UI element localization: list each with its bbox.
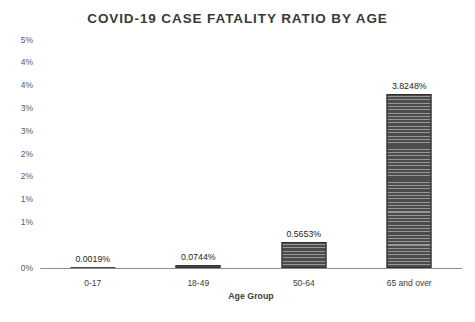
bar-slot: 0.0019% [40, 40, 146, 268]
bar-slot: 0.5653% [251, 40, 357, 268]
y-axis-tick-label: 4% [0, 81, 33, 90]
bar-slot: 0.0744% [146, 40, 252, 268]
y-axis-tick-label: 5% [0, 36, 33, 45]
y-axis-tick-label: 2% [0, 150, 33, 159]
x-axis-category-label: 18-49 [146, 278, 252, 288]
plot-area: 0.0019%0.0744%0.5653%3.8248% [40, 40, 462, 268]
bar[interactable] [176, 265, 221, 268]
y-axis-tick-label: 0% [0, 264, 33, 273]
bar[interactable] [70, 267, 115, 268]
bar-value-label: 0.5653% [286, 229, 321, 239]
bar-slot: 3.8248% [357, 40, 463, 268]
bar-value-label: 0.0744% [181, 252, 216, 262]
y-axis-tick-label: 1% [0, 195, 33, 204]
y-axis-tick-label: 3% [0, 127, 33, 136]
y-axis-tick-label: 3% [0, 104, 33, 113]
x-axis-line [40, 268, 462, 269]
x-axis-title: Age Group [40, 291, 462, 301]
y-axis-tick-label: 4% [0, 58, 33, 67]
bar-value-label: 3.8248% [392, 81, 427, 91]
chart-title: COVID-19 CASE FATALITY RATIO BY AGE [0, 11, 475, 26]
x-axis-category-label: 0-17 [40, 278, 146, 288]
x-axis-category-label: 50-64 [251, 278, 357, 288]
y-axis-tick-label: 1% [0, 218, 33, 227]
x-axis-category-label: 65 and over [357, 278, 463, 288]
bar[interactable] [281, 242, 326, 268]
bar-value-label: 0.0019% [75, 254, 110, 264]
bar[interactable] [387, 94, 432, 268]
y-axis-tick-label: 2% [0, 172, 33, 181]
